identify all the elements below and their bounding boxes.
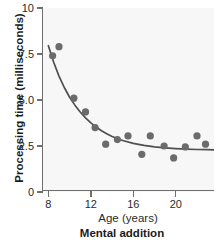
x-axis-title: Age (years): [42, 212, 214, 224]
plot-area: [42, 8, 214, 192]
x-axis-line: [42, 190, 214, 191]
y-axis-title: Processing time (milliseconds): [13, 10, 25, 186]
y-axis-tick: [37, 53, 43, 54]
y-axis-tick: [37, 7, 43, 8]
data-point: [49, 52, 56, 59]
data-point: [82, 108, 89, 115]
chart-figure: 02.55.07.510 8121620 Processing time (mi…: [0, 0, 214, 242]
data-layer: [42, 8, 214, 192]
data-point: [114, 136, 121, 143]
x-axis-tick-label: 20: [164, 199, 188, 210]
x-axis-tick-label: 16: [121, 199, 145, 210]
y-axis-tick-label: 0: [0, 187, 34, 198]
data-point: [70, 95, 77, 102]
x-axis-tick: [90, 191, 91, 197]
data-point: [102, 141, 109, 148]
y-axis-tick: [37, 191, 43, 192]
data-point: [202, 141, 209, 148]
x-axis-tick: [175, 191, 176, 197]
x-axis-tick-label: 12: [79, 199, 103, 210]
chart-caption: Mental addition: [30, 227, 214, 239]
y-axis-tick: [37, 145, 43, 146]
x-axis-tick: [133, 191, 134, 197]
data-point: [124, 132, 131, 139]
x-axis-tick: [48, 191, 49, 197]
data-point: [193, 132, 200, 139]
data-point: [147, 132, 154, 139]
x-axis-tick-label: 8: [36, 199, 60, 210]
y-axis-tick: [37, 99, 43, 100]
data-point: [91, 124, 98, 131]
data-point: [170, 154, 177, 161]
data-point: [182, 143, 189, 150]
data-point: [161, 142, 168, 149]
data-point: [55, 43, 62, 50]
data-point: [138, 151, 145, 158]
